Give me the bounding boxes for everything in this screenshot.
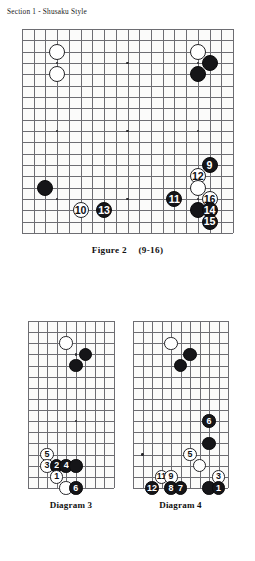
grid-line-vertical: [139, 29, 140, 233]
stone-move-number: 15: [204, 216, 216, 227]
grid-line-vertical: [28, 321, 29, 488]
grid-line-horizontal: [28, 410, 114, 411]
stone-move-7[interactable]: 7: [174, 481, 187, 494]
grid-line-vertical: [38, 321, 39, 488]
grid-line-vertical: [221, 29, 222, 233]
grid-line-vertical: [209, 321, 210, 488]
stone-white[interactable]: [49, 44, 65, 60]
grid-line-vertical: [233, 29, 234, 233]
stone-move-number: 11: [169, 194, 180, 205]
grid-line-vertical: [85, 321, 86, 488]
board-grid: [133, 321, 228, 488]
figure2-caption-label: Figure 2: [92, 245, 127, 255]
stone-white[interactable]: [164, 337, 177, 350]
stone-move-number: 6: [207, 417, 212, 426]
grid-line-vertical: [104, 321, 105, 488]
stone-black[interactable]: [79, 348, 93, 362]
grid-line-horizontal: [28, 432, 114, 433]
stone-move-1[interactable]: 1: [212, 481, 225, 494]
grid-line-vertical: [22, 29, 23, 233]
stone-move-12[interactable]: 12: [145, 481, 158, 494]
page-root: Section 1 - Shusaku Style 91211161415101…: [0, 0, 255, 561]
grid-line-horizontal: [28, 399, 114, 400]
grid-line-vertical: [133, 321, 134, 488]
grid-line-horizontal: [28, 477, 114, 478]
stone-move-number: 9: [207, 160, 213, 171]
grid-line-vertical: [219, 321, 220, 488]
grid-line-vertical: [92, 29, 93, 233]
grid-line-vertical: [163, 29, 164, 233]
grid-line-vertical: [143, 321, 144, 488]
stone-move-number: 12: [147, 484, 157, 493]
figure2-caption-moves: (9-16): [130, 245, 164, 255]
stone-move-10[interactable]: 10: [73, 202, 89, 218]
grid-line-horizontal: [28, 421, 114, 422]
stone-move-number: 7: [178, 484, 183, 493]
stone-move-number: 9: [169, 472, 174, 481]
stone-move-13[interactable]: 13: [96, 202, 112, 218]
stone-black[interactable]: [183, 348, 196, 361]
grid-line-horizontal: [28, 321, 114, 322]
hoshi-point: [126, 130, 128, 132]
stone-black[interactable]: [69, 359, 83, 373]
stone-move-number: 5: [188, 450, 193, 459]
grid-line-horizontal: [28, 388, 114, 389]
grid-line-vertical: [69, 29, 70, 233]
stone-move-number: 10: [75, 205, 87, 216]
stone-move-number: 6: [73, 484, 78, 493]
stone-black[interactable]: [69, 459, 83, 473]
stone-move-number: 1: [216, 484, 221, 493]
board-figure2[interactable]: 912111614151013: [22, 29, 233, 233]
grid-line-horizontal: [28, 332, 114, 333]
grid-line-vertical: [95, 321, 96, 488]
grid-line-vertical: [162, 321, 163, 488]
grid-line-horizontal: [22, 233, 233, 234]
stone-move-number: 8: [169, 484, 174, 493]
hoshi-point: [141, 453, 143, 455]
grid-line-vertical: [114, 321, 115, 488]
hoshi-point: [126, 62, 128, 64]
stone-move-number: 13: [98, 205, 110, 216]
stone-move-6[interactable]: 6: [202, 414, 215, 427]
stone-move-number: 3: [45, 461, 50, 470]
grid-line-horizontal: [28, 354, 114, 355]
grid-line-horizontal: [28, 443, 114, 444]
grid-line-vertical: [45, 29, 46, 233]
figure2-caption: Figure 2 (9-16): [22, 245, 233, 255]
stone-move-number: 5: [45, 450, 50, 459]
diagram3-caption: Diagram 3: [28, 500, 114, 510]
stone-move-11[interactable]: 11: [166, 191, 182, 207]
grid-line-vertical: [228, 321, 229, 488]
grid-line-horizontal: [28, 377, 114, 378]
grid-line-vertical: [190, 321, 191, 488]
grid-line-vertical: [181, 321, 182, 488]
hoshi-point: [126, 198, 128, 200]
stone-move-number: 3: [216, 472, 221, 481]
grid-line-vertical: [152, 321, 153, 488]
stone-move-15[interactable]: 15: [202, 214, 218, 230]
stone-move-number: 2: [54, 461, 59, 470]
stone-black[interactable]: [202, 437, 215, 450]
grid-line-vertical: [151, 29, 152, 233]
section-title: Section 1 - Shusaku Style: [7, 7, 87, 16]
board-diagram4[interactable]: 65119312871: [133, 321, 228, 488]
stone-white[interactable]: [59, 336, 73, 350]
stone-move-number: 4: [64, 461, 69, 470]
board-diagram3[interactable]: 532416: [28, 321, 114, 488]
stone-move-number: 1: [54, 472, 59, 481]
grid-line-vertical: [34, 29, 35, 233]
diagram4-caption: Diagram 4: [133, 500, 228, 510]
hoshi-point: [75, 353, 77, 355]
stone-move-6[interactable]: 6: [69, 481, 83, 495]
grid-line-vertical: [116, 29, 117, 233]
grid-line-vertical: [186, 29, 187, 233]
